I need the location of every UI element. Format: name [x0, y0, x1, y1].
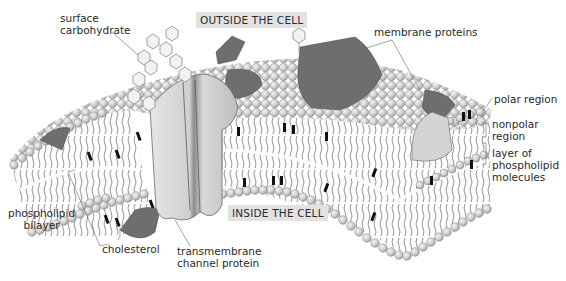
membrane-proteins-label: membrane proteins — [374, 26, 478, 38]
layer-of-phospholipid-molecules-label: layer of phospholipid molecules — [492, 147, 559, 183]
phospholipid-bilayer-label: phospholipid bilayer — [8, 207, 75, 231]
transmembrane-channel-protein-label: transmembrane channel protein — [177, 245, 261, 269]
layer-line1: layer of — [492, 147, 559, 159]
polar-region-label: polar region — [494, 93, 557, 105]
nonpolar-region-line2: region — [492, 130, 539, 142]
surface-carbohydrate-line1: surface — [60, 12, 130, 24]
cholesterol-label: cholesterol — [102, 243, 160, 255]
surface-carbohydrate-line2: carbohydrate — [60, 24, 130, 36]
inside-the-cell-label: INSIDE THE CELL — [228, 205, 328, 221]
layer-line2: phospholipid — [492, 159, 559, 171]
transmembrane-line1: transmembrane — [177, 245, 261, 257]
surface-carbohydrate-label: surface carbohydrate — [60, 12, 130, 36]
phospholipid-bilayer-line1: phospholipid — [8, 207, 75, 219]
phospholipid-bilayer-line2: bilayer — [8, 219, 75, 231]
transmembrane-line2: channel protein — [177, 257, 261, 269]
nonpolar-region-line1: nonpolar — [492, 118, 539, 130]
outside-the-cell-label: OUTSIDE THE CELL — [196, 12, 307, 28]
nonpolar-region-label: nonpolar region — [492, 118, 539, 142]
cell-membrane-illustration — [0, 0, 566, 281]
layer-line3: molecules — [492, 171, 559, 183]
